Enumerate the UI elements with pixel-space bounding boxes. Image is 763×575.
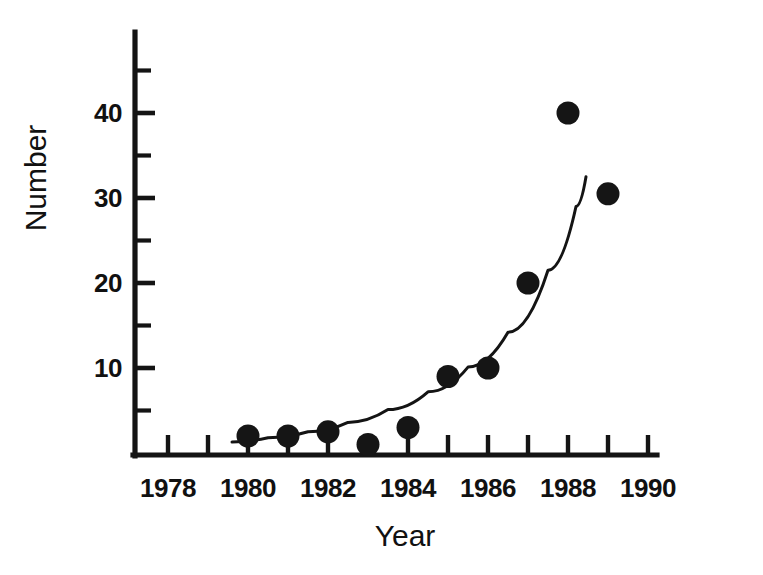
y-axis-group: 10203040 [94,32,155,456]
x-tick-label-1980: 1980 [220,473,276,503]
data-point-1983 [357,433,380,456]
y-tick-label-40: 40 [94,98,122,128]
fit-curve-group [232,177,586,442]
x-tick-label-1988: 1988 [540,473,596,503]
data-point-1984 [397,416,420,439]
data-point-1989 [597,182,620,205]
chart-figure: 10203040 1978198019821984198619881990 Nu… [0,0,763,575]
data-point-1980 [237,425,260,448]
y-tick-label-20: 20 [94,268,122,298]
data-point-1987 [517,272,540,295]
x-tick-label-1978: 1978 [140,473,196,503]
y-axis-tick-labels: 10203040 [94,98,122,383]
data-point-group [237,102,620,457]
x-axis-title: Year [375,519,436,552]
data-point-1985 [437,365,460,388]
y-axis-ticks [135,71,155,411]
data-point-1982 [317,420,340,443]
data-point-1988 [557,102,580,125]
fitted-exponential-curve [232,177,586,442]
x-tick-label-1990: 1990 [620,473,676,503]
x-tick-label-1986: 1986 [460,473,516,503]
x-axis-group: 1978198019821984198619881990 [133,435,676,503]
x-tick-label-1984: 1984 [380,473,437,503]
x-tick-label-1982: 1982 [300,473,356,503]
data-point-1986 [477,357,500,380]
x-axis-tick-labels: 1978198019821984198619881990 [140,473,676,503]
y-axis-title: Number [19,125,52,232]
scatter-plot-canvas: 10203040 1978198019821984198619881990 Nu… [0,0,763,575]
y-tick-label-30: 30 [94,183,122,213]
data-point-1981 [277,425,300,448]
y-tick-label-10: 10 [94,353,122,383]
